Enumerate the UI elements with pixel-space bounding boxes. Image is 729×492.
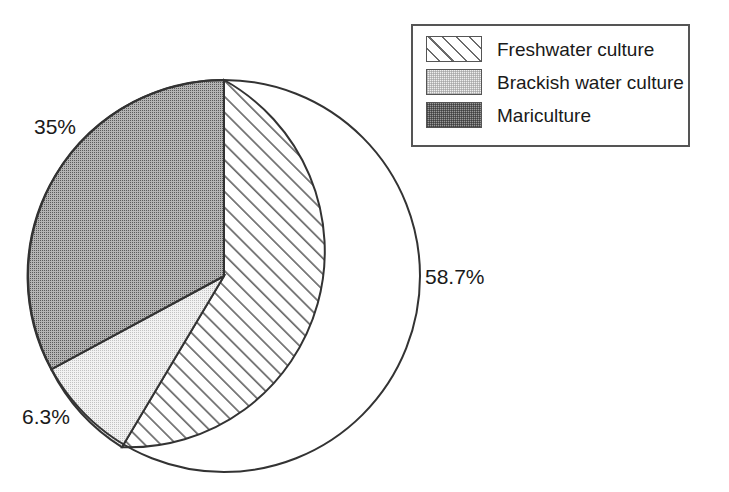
legend-swatch-diagonal-hatch-icon bbox=[426, 36, 482, 62]
legend-label-mariculture: Mariculture bbox=[497, 106, 591, 125]
legend-item-brackish[interactable]: Brackish water culture bbox=[426, 69, 684, 95]
pie-chart-page: 35% 58.7% 6.3% Freshwater culture Bracki… bbox=[0, 0, 729, 492]
chart-legend: Freshwater culture Brackish water cultur… bbox=[411, 24, 690, 147]
legend-item-mariculture[interactable]: Mariculture bbox=[426, 102, 591, 128]
pie-label-brackish-percent: 6.3% bbox=[22, 405, 70, 429]
pie-label-freshwater-percent: 58.7% bbox=[425, 265, 485, 289]
pie-label-mariculture-percent: 35% bbox=[34, 115, 76, 139]
legend-item-freshwater[interactable]: Freshwater culture bbox=[426, 36, 654, 62]
legend-swatch-dark-dot-icon bbox=[426, 102, 482, 128]
legend-label-freshwater: Freshwater culture bbox=[497, 40, 654, 59]
legend-label-brackish: Brackish water culture bbox=[497, 73, 684, 92]
legend-swatch-light-dot-icon bbox=[426, 69, 482, 95]
